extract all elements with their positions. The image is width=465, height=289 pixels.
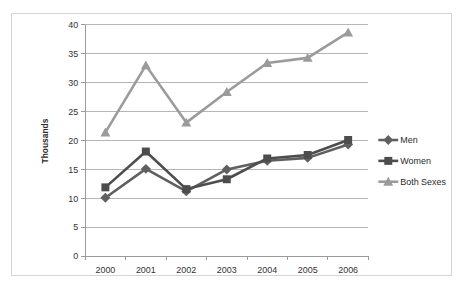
y-axis-title: Thousands [40,118,50,163]
x-tick-label: 2003 [217,265,237,275]
series-men [100,140,353,203]
y-tick-label: 25 [68,107,78,117]
y-tick-label: 40 [68,20,78,30]
data-point-marker [223,175,231,183]
y-tick-label: 35 [68,49,78,59]
y-tick-label: 0 [73,251,78,261]
legend-swatch-marker [384,157,392,165]
legend-label: Both Sexes [400,177,446,187]
y-tick-label: 15 [68,165,78,175]
data-point-marker [141,60,151,69]
data-point-marker [222,164,232,174]
x-tick-label: 2005 [298,265,318,275]
legend-item-both-sexes[interactable]: Both Sexes [378,177,446,187]
data-point-marker [344,136,352,144]
x-tick-label: 2006 [338,265,358,275]
chart-figure: 0510152025303540 20002001200220032004200… [11,13,452,276]
y-tick-label: 5 [73,222,78,232]
y-tick-label: 10 [68,194,78,204]
x-tick-label: 2004 [257,265,277,275]
x-tick-label: 2000 [95,265,115,275]
data-point-marker [263,154,271,162]
legend-label: Men [400,135,417,145]
data-point-marker [304,151,312,159]
legend-swatch-marker [383,135,393,145]
x-tick-label: 2001 [136,265,156,275]
legend-label: Women [400,156,431,166]
data-point-marker [343,27,353,36]
data-point-marker [142,148,150,156]
line-chart: 0510152025303540 20002001200220032004200… [12,14,451,275]
x-axis-ticks: 2000200120022003200420052006 [85,256,368,275]
y-tick-label: 20 [68,136,78,146]
legend-item-women[interactable]: Women [378,156,431,166]
series-both-sexes [100,27,353,136]
chart-legend: MenWomenBoth Sexes [378,135,446,187]
data-point-marker [101,183,109,191]
data-point-marker [182,185,190,193]
y-axis-ticks: 0510152025303540 [68,20,85,261]
gridlines [85,25,368,227]
legend-item-men[interactable]: Men [378,135,417,145]
y-tick-label: 30 [68,78,78,88]
x-tick-label: 2002 [176,265,196,275]
